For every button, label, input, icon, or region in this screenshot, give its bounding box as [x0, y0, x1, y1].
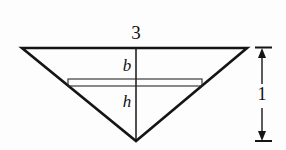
dimension-arrow-down-icon — [258, 131, 266, 141]
inscribed-rectangle-shape — [68, 79, 202, 86]
rectangle-width-label: b — [123, 56, 132, 75]
vertical-dimension-label: 1 — [258, 84, 267, 104]
rectangle-height-label: h — [123, 92, 132, 111]
top-width-label: 3 — [131, 22, 141, 43]
inverted-triangle-shape — [22, 48, 247, 141]
geometry-figure: 3 b h 1 — [0, 0, 286, 150]
dimension-arrow-up-icon — [258, 48, 266, 58]
figure-canvas: 3 b h 1 — [0, 0, 286, 150]
